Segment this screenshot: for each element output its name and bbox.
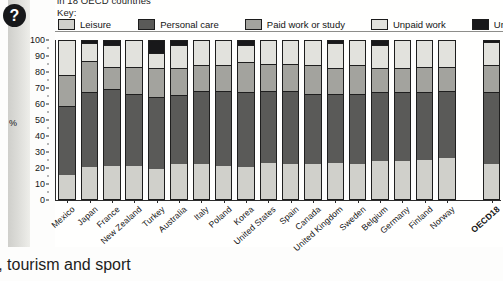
stacked-bar[interactable]: [327, 40, 344, 200]
legend-label-unspecified: Unspecified: [494, 19, 503, 30]
bar-segment: [328, 68, 343, 94]
y-tick-mark: [46, 200, 49, 201]
help-question-icon[interactable]: ?: [3, 4, 26, 27]
bar-slot[interactable]: [190, 40, 212, 200]
bar-segment: [238, 62, 253, 93]
bar-segment: [484, 164, 499, 199]
bar-segment: [171, 164, 186, 199]
bar-segment: [305, 94, 320, 165]
bar-segment: [350, 94, 365, 165]
bar-segment: [104, 67, 119, 90]
bar-slot[interactable]: [369, 40, 391, 200]
stacked-bar[interactable]: [170, 40, 187, 200]
stacked-bar[interactable]: [438, 40, 455, 200]
bar-segment: [216, 40, 231, 66]
stacked-bar[interactable]: [394, 40, 411, 200]
bar-slot[interactable]: [168, 40, 190, 200]
bar-slot[interactable]: [279, 40, 301, 200]
legend-swatch-unpaid-work: [371, 19, 388, 30]
bar-segment: [238, 167, 253, 199]
bar-segment: [216, 91, 231, 166]
stacked-bar[interactable]: [483, 40, 500, 200]
bar-slot[interactable]: [257, 40, 279, 200]
bar-segment: [171, 68, 186, 96]
y-tick-label: 60: [11, 99, 45, 109]
bar-slot[interactable]: [302, 40, 324, 200]
bar-slot[interactable]: [346, 40, 368, 200]
bar-slot[interactable]: [391, 40, 413, 200]
legend-item-paid-work: Paid work or study: [245, 19, 345, 30]
stacked-bar[interactable]: [282, 40, 299, 200]
stacked-bar[interactable]: [260, 40, 277, 200]
bar-segment: [417, 40, 432, 68]
bar-slot[interactable]: [145, 40, 167, 200]
stacked-bar[interactable]: [193, 40, 210, 200]
bar-segment: [126, 166, 141, 199]
stacked-bar[interactable]: [237, 40, 254, 200]
bar-slot[interactable]: [101, 40, 123, 200]
legend-item-unspecified: Unspecified: [472, 19, 503, 30]
stacked-bar[interactable]: [416, 40, 433, 200]
bar-segment: [328, 94, 343, 163]
bar-segment: [283, 40, 298, 65]
bar-segment: [372, 45, 387, 70]
bar-slot[interactable]: [436, 40, 458, 200]
bar-slot[interactable]: [414, 40, 436, 200]
bar-segment: [484, 42, 499, 67]
bar-segment: [104, 89, 119, 166]
bar-slot[interactable]: [212, 40, 234, 200]
running-heading-clipped: re, tourism and sport: [0, 257, 300, 281]
y-tick-mark: [46, 56, 49, 57]
legend-item-personal-care: Personal care: [138, 19, 219, 30]
y-tick-label: 100: [11, 35, 45, 45]
bar-segment: [194, 65, 209, 91]
bar-segment: [59, 40, 74, 76]
y-tick-mark: [46, 184, 49, 185]
legend-swatch-personal-care: [138, 19, 155, 30]
bar-segment: [283, 64, 298, 92]
y-minor-tick: [47, 96, 49, 97]
bar-segment: [395, 40, 410, 69]
bar-segment: [59, 75, 74, 108]
running-heading-text: re, tourism and sport: [0, 257, 131, 274]
key-heading: Key:: [57, 7, 76, 18]
stacked-bar[interactable]: [58, 40, 75, 200]
bar-segment: [216, 65, 231, 91]
bar-segment: [417, 92, 432, 159]
bar-segment: [171, 45, 186, 70]
bar-slot[interactable]: [481, 40, 503, 200]
stacked-bar[interactable]: [125, 40, 142, 200]
y-tick-mark: [46, 88, 49, 89]
bar-segment: [305, 65, 320, 94]
stacked-bar[interactable]: [371, 40, 388, 200]
bar-segment: [261, 163, 276, 199]
plot-area: % 0102030405060708090100 MexicoJapanFran…: [55, 40, 503, 208]
bar-slot[interactable]: [78, 40, 100, 200]
bar-segment: [261, 91, 276, 163]
bar-slot[interactable]: [324, 40, 346, 200]
stacked-bar[interactable]: [81, 40, 98, 200]
stacked-bar[interactable]: [304, 40, 321, 200]
bar-segment: [261, 40, 276, 65]
bar-gap-spacer: [458, 40, 480, 200]
legend-label-paid-work: Paid work or study: [267, 19, 345, 30]
stacked-bar[interactable]: [103, 40, 120, 200]
bar-slot[interactable]: [235, 40, 257, 200]
bar-segment: [126, 94, 141, 166]
y-tick-mark: [46, 72, 49, 73]
legend-item-unpaid-work: Unpaid work: [371, 19, 446, 30]
bar-slot[interactable]: [123, 40, 145, 200]
bar-segment: [350, 65, 365, 94]
y-tick-mark: [46, 168, 49, 169]
bar-segment: [171, 95, 186, 164]
y-minor-tick: [47, 80, 49, 81]
bar-segment: [439, 91, 454, 158]
stacked-bar[interactable]: [349, 40, 366, 200]
bar-segment: [305, 40, 320, 66]
stacked-bar[interactable]: [215, 40, 232, 200]
stacked-bar[interactable]: [148, 40, 165, 200]
y-tick-label: 40: [11, 131, 45, 141]
bar-segment: [372, 161, 387, 199]
bar-group: [56, 40, 503, 200]
bar-slot[interactable]: [56, 40, 78, 200]
